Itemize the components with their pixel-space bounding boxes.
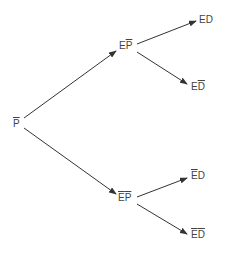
leaf-edbar: ED [191, 81, 205, 93]
node-root: P [13, 118, 20, 130]
leaf-ebard-d: D [198, 170, 205, 181]
node-ebarp-e: E [118, 192, 125, 203]
edge-root-to-ep [24, 51, 116, 118]
tree-edges [0, 0, 231, 257]
leaf-ed: ED [199, 14, 213, 26]
leaf-ed-e: E [199, 14, 206, 25]
edge-ebarp-to-ebard [137, 178, 187, 197]
node-ep-p: P [126, 40, 133, 51]
node-root-label: P [13, 118, 20, 129]
node-ebarp-p: P [125, 192, 132, 203]
node-ebarp: EP [118, 192, 131, 204]
edge-ebarp-to-ebardbar [137, 204, 187, 234]
node-ep-e: E [119, 40, 126, 51]
edge-root-to-ebarp [24, 128, 116, 194]
edge-ep-to-edbar [137, 52, 187, 84]
node-ep: EP [119, 40, 132, 52]
leaf-ebardbar: ED [191, 229, 205, 241]
leaf-edbar-e: E [191, 81, 198, 92]
leaf-ebard-e: E [191, 170, 198, 181]
leaf-ebard: ED [191, 170, 205, 182]
edge-ep-to-ed [137, 21, 196, 44]
leaf-ebardbar-e: E [191, 229, 198, 240]
leaf-ebardbar-d: D [198, 229, 205, 240]
leaf-ed-d: D [206, 14, 213, 25]
leaf-edbar-d: D [198, 81, 205, 92]
